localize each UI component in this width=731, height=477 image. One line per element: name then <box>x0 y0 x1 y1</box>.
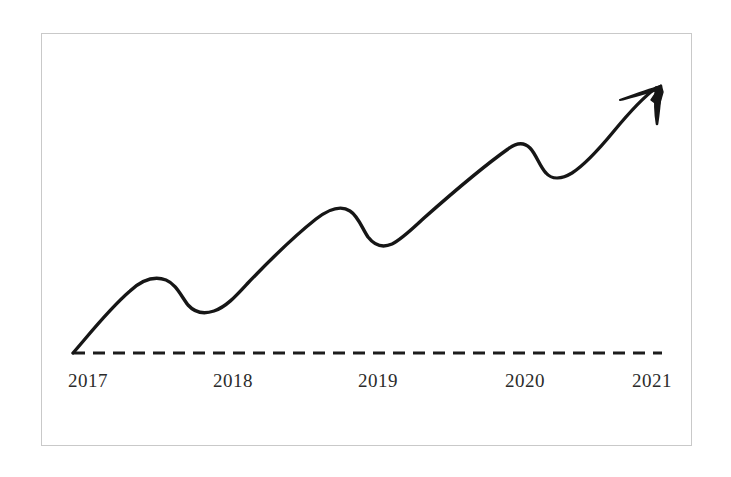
trend-line <box>73 88 656 353</box>
chart-canvas: 2017 2018 2019 2020 2021 <box>0 0 731 477</box>
tick-label-2020: 2020 <box>505 370 545 392</box>
tick-label-2018: 2018 <box>213 370 253 392</box>
tick-label-2017: 2017 <box>68 370 108 392</box>
tick-label-2019: 2019 <box>358 370 398 392</box>
growth-chart-graphic <box>0 0 731 477</box>
tick-label-2021: 2021 <box>632 370 672 392</box>
